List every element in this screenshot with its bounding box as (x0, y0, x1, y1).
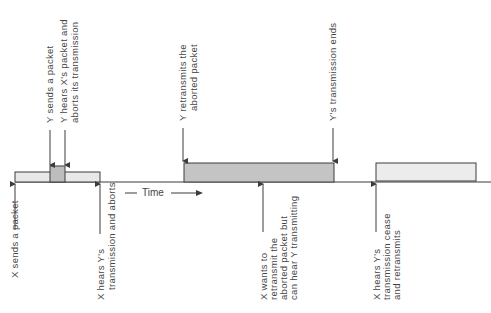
y-packet-1 (50, 166, 65, 182)
y-packet-2 (184, 163, 334, 182)
time-label: Time (142, 187, 164, 198)
label-x-sends: X sends a packet (9, 200, 20, 278)
time-arrowhead-icon (196, 190, 203, 196)
csma-timing-diagram: Time Y sends a packet Y hears X's packet… (0, 0, 491, 313)
label-y-ends: Y's transmission ends (327, 23, 338, 121)
label-x-wants: X wants to retransmit the aborted packet… (258, 196, 299, 300)
x-packet-2 (376, 163, 476, 181)
label-y-retransmits: Y retransmits the aborted packet (177, 41, 199, 121)
label-y-hears-aborts: Y hears X's packet and aborts its transm… (58, 16, 80, 123)
label-x-hears-aborts: X hears Y's transmission and aborts (95, 182, 117, 300)
label-y-sends: Y sends a packet (44, 45, 55, 123)
